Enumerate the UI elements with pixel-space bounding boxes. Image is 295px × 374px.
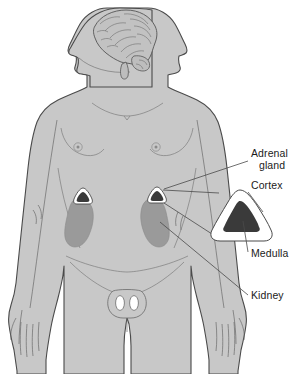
label-cortex: Cortex (251, 179, 283, 191)
brain-stem (121, 62, 129, 79)
scrotum-outline (108, 290, 147, 319)
adrenal-gland-figure: Adrenal gland Cortex Medulla Kidney (0, 0, 295, 374)
label-adrenal-gland-line2: gland (259, 159, 285, 171)
testis-right (130, 296, 139, 311)
label-adrenal-gland-line1: Adrenal (251, 147, 288, 159)
testis-left (116, 296, 125, 311)
label-medulla: Medulla (251, 247, 289, 259)
label-kidney: Kidney (251, 289, 284, 301)
anatomy-illustration: Adrenal gland Cortex Medulla Kidney (0, 0, 295, 374)
